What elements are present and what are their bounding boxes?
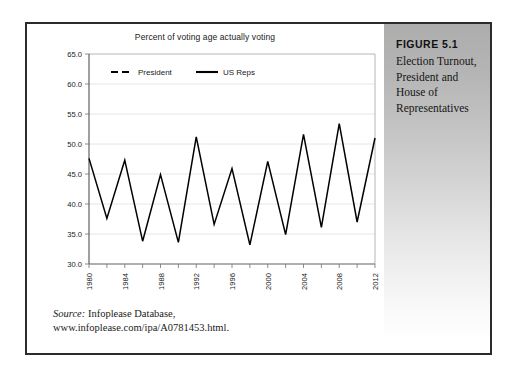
figure-number: FIGURE 5.1 <box>396 38 478 50</box>
y-tick-label: 55.0 <box>67 110 82 119</box>
y-tick-label: 45.0 <box>67 170 82 179</box>
legend-label-us-reps: US Reps <box>223 68 255 77</box>
figure-caption-text: Election Turnout, President and House of… <box>396 54 478 116</box>
x-tick-label: 1988 <box>157 273 166 290</box>
x-tick-label: 1984 <box>121 273 130 290</box>
x-tick-label: 2008 <box>335 273 344 290</box>
source-line1: Infoplease Database, <box>85 308 175 319</box>
source-note: Source: Infoplease Database, www.infople… <box>53 307 373 335</box>
chart-area: Percent of voting age actually voting 30… <box>27 24 383 353</box>
legend-label-president: President <box>138 68 173 77</box>
x-tick-label: 2000 <box>264 273 273 290</box>
y-tick-label: 40.0 <box>67 200 82 209</box>
x-tick-label: 1980 <box>85 273 94 290</box>
x-tick-label: 1996 <box>228 273 237 290</box>
figure-caption-panel: FIGURE 5.1 Election Turnout, President a… <box>384 24 490 353</box>
x-tick-label: 2012 <box>371 273 380 290</box>
y-tick-label: 30.0 <box>67 260 82 269</box>
x-tick-label: 2004 <box>300 273 309 290</box>
plot-background <box>89 54 375 264</box>
chart-title: Percent of voting age actually voting <box>27 32 383 42</box>
figure-container: Percent of voting age actually voting 30… <box>0 0 518 376</box>
source-label: Source: <box>53 308 85 319</box>
y-tick-label: 65.0 <box>67 50 82 59</box>
x-tick-label: 1992 <box>192 273 201 290</box>
source-line2: www.infoplease.com/ipa/A0781453.html. <box>53 322 229 333</box>
y-tick-label: 60.0 <box>67 80 82 89</box>
y-tick-label: 35.0 <box>67 230 82 239</box>
y-tick-label: 50.0 <box>67 140 82 149</box>
figure-frame: Percent of voting age actually voting 30… <box>25 22 492 355</box>
line-chart-plot: 30.035.040.045.050.055.060.065.019801984… <box>27 46 383 308</box>
